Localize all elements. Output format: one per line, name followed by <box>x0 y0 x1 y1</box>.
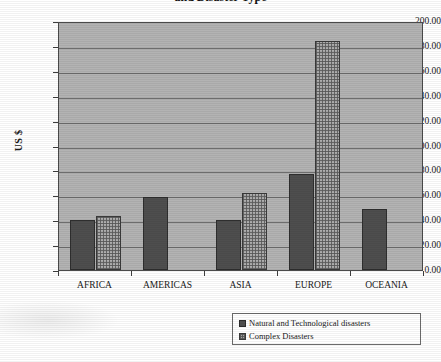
legend-item-complex: Complex Disasters <box>239 330 416 342</box>
bar-asia-natural <box>216 220 241 270</box>
y-axis-title: US $ <box>13 111 24 171</box>
bar-africa-natural <box>70 220 95 270</box>
legend-swatch-natural-icon <box>239 320 246 327</box>
x-axis-tick-mark <box>131 271 132 276</box>
gridline <box>59 48 422 49</box>
x-axis-tick-mark <box>204 271 205 276</box>
bar-africa-complex <box>96 216 121 270</box>
x-axis-tick-mark <box>58 271 59 276</box>
x-axis-tick-mark <box>350 271 351 276</box>
plot-area <box>58 22 423 271</box>
bar-oceania-natural <box>362 209 387 270</box>
bar-americas-natural <box>143 197 168 270</box>
bar-asia-complex <box>242 193 267 270</box>
chart-title: and Disaster Type <box>0 0 441 3</box>
legend-swatch-complex-icon <box>239 333 246 340</box>
scan-smudge <box>0 300 120 340</box>
legend-item-natural: Natural and Technological disasters <box>239 317 416 329</box>
gridline <box>59 197 422 198</box>
gridline <box>59 73 422 74</box>
legend-label-natural: Natural and Technological disasters <box>249 319 370 328</box>
gridline <box>59 148 422 149</box>
x-axis-tick-mark <box>423 271 424 276</box>
bar-europe-natural <box>289 174 314 270</box>
gridline <box>59 123 422 124</box>
x-axis-tick-mark <box>277 271 278 276</box>
gridline <box>59 172 422 173</box>
legend-label-complex: Complex Disasters <box>249 332 313 341</box>
chart-legend: Natural and Technological disasters Comp… <box>232 313 421 345</box>
x-axis-label-oceania: OCEANIA <box>337 280 437 291</box>
gridline <box>59 98 422 99</box>
bar-europe-complex <box>315 41 340 270</box>
